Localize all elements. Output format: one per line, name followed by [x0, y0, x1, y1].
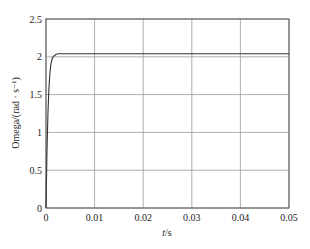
y-tick-label: 1.5	[30, 89, 43, 100]
x-tick-labels: 00.010.020.030.040.05	[44, 212, 298, 223]
x-tick-label: 0.05	[280, 212, 298, 223]
line-chart: 00.010.020.030.040.05 00.511.522.5 t/s O…	[0, 0, 310, 249]
data-series	[46, 54, 289, 208]
x-tick-label: 0.03	[183, 212, 201, 223]
x-tick-label: 0.04	[232, 212, 250, 223]
y-tick-label: 2.5	[30, 14, 43, 25]
x-axis-label: t/s	[162, 227, 172, 238]
x-tick-label: 0	[44, 212, 49, 223]
plot-frame	[46, 19, 289, 208]
y-tick-label: 0.5	[30, 165, 43, 176]
x-axis-label-unit: /s	[165, 227, 172, 238]
x-tick-label: 0.02	[134, 212, 152, 223]
grid-lines	[46, 19, 289, 208]
x-tick-label: 0.01	[86, 212, 104, 223]
y-tick-label: 1	[37, 127, 42, 138]
series-line	[46, 54, 289, 208]
y-tick-label: 2	[37, 51, 42, 62]
plot-border	[46, 19, 289, 208]
y-axis-label: Omega/(rad · s⁻¹)	[10, 77, 22, 149]
y-tick-labels: 00.511.522.5	[30, 14, 43, 214]
y-tick-label: 0	[37, 203, 42, 214]
